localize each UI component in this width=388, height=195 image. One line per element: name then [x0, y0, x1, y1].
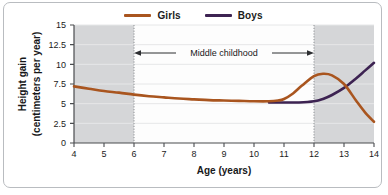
x-axis-ticks	[74, 143, 374, 147]
x-axis-tick-labels: 4 5 6 7 8 9 10 11 12 13 14	[71, 149, 379, 159]
chart-frame: Girls Boys	[3, 2, 382, 188]
y-tick-10: 10	[56, 60, 66, 70]
y-tick-15: 15	[56, 20, 66, 30]
annotation-label: Middle childhood	[190, 48, 258, 58]
plot-container: Middle childhood 15 12.5 10 7.5 5	[4, 3, 382, 188]
x-tick-10: 10	[249, 149, 259, 159]
y-axis-title-line1: Height gain	[17, 57, 28, 111]
x-tick-8: 8	[191, 149, 196, 159]
y-tick-0: 0	[61, 138, 66, 148]
y-tick-12.5: 12.5	[48, 40, 66, 50]
y-axis-tick-labels: 15 12.5 10 7.5 5 2.5 0	[48, 20, 66, 148]
y-tick-2.5: 2.5	[53, 119, 66, 129]
x-tick-5: 5	[101, 149, 106, 159]
x-tick-4: 4	[71, 149, 76, 159]
x-tick-11: 11	[279, 149, 288, 159]
x-tick-9: 9	[221, 149, 226, 159]
x-axis-title: Age (years)	[197, 165, 251, 176]
growth-rate-line-chart: Middle childhood 15 12.5 10 7.5 5	[4, 3, 382, 188]
x-tick-6: 6	[131, 149, 136, 159]
x-tick-14: 14	[369, 149, 379, 159]
y-tick-5: 5	[61, 99, 66, 109]
x-tick-12: 12	[309, 149, 319, 159]
x-tick-13: 13	[339, 149, 349, 159]
y-tick-7.5: 7.5	[53, 79, 66, 89]
y-axis-title-line2: (centimeters per year)	[31, 32, 42, 137]
x-tick-7: 7	[161, 149, 166, 159]
